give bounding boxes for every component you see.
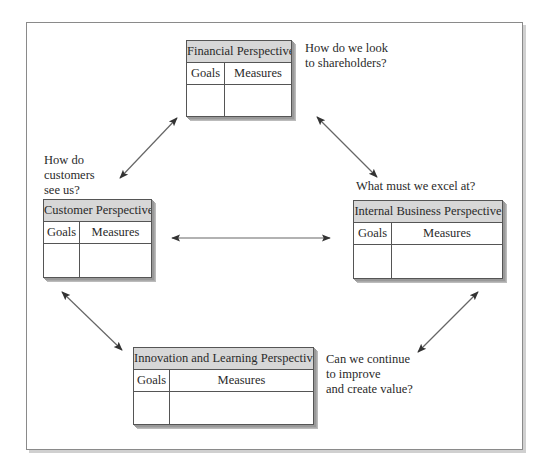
arrow-financial-internal [317,117,377,177]
arrow-internal-innovation [418,292,478,352]
arrows-layer [0,0,552,465]
arrow-customer-innovation [62,292,122,350]
arrow-financial-customer [120,118,177,178]
